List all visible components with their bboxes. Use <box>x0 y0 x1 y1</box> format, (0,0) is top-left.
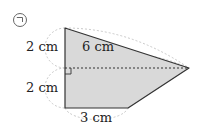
label-diagonal: 6 cm <box>82 39 114 54</box>
label-left-bottom: 2 cm <box>26 80 58 95</box>
figure-canvas: 2 cm 2 cm 6 cm 3 cm <box>0 0 198 139</box>
figure-marker <box>14 14 27 27</box>
label-left-top: 2 cm <box>26 39 58 54</box>
label-bottom: 3 cm <box>80 110 112 125</box>
